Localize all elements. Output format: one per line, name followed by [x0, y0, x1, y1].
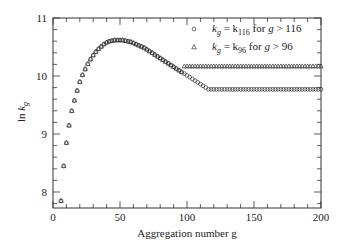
chart: 050100150200891011 Aggregation number g … [0, 0, 344, 246]
legend-entry-text: kg = k96 for g > 96 [212, 40, 293, 55]
x-tick-label: 200 [313, 211, 330, 223]
x-tick-label: 150 [246, 211, 263, 223]
data-marks [59, 38, 323, 203]
x-tick-label: 100 [179, 211, 196, 223]
y-tick-label: 11 [36, 12, 47, 24]
y-axis-label: ln kg [15, 102, 30, 122]
x-tick-label: 50 [115, 211, 127, 223]
legend-circle-marker [192, 27, 196, 31]
legend: kg = k116 for g > 116kg = k96 for g > 96 [192, 22, 302, 55]
svg-text:ln kg: ln kg [15, 102, 30, 122]
legend-entry-text: kg = k116 for g > 116 [212, 22, 302, 37]
legend-triangle-marker [192, 45, 197, 49]
y-tick-label: 8 [42, 186, 48, 198]
y-tick-label: 9 [42, 128, 48, 140]
x-tick-label: 0 [50, 211, 56, 223]
y-tick-label: 10 [36, 70, 48, 82]
x-axis-label: Aggregation number g [137, 227, 237, 239]
